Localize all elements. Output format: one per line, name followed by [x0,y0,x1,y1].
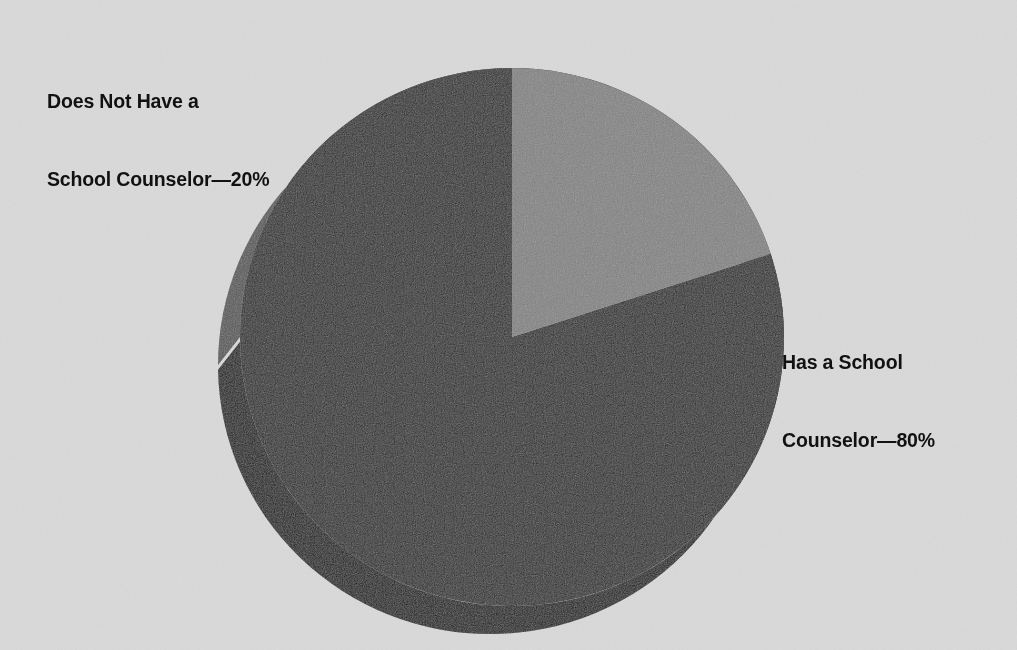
has-counselor-label-line2: Counselor—80% [782,427,935,453]
pie-chart-figure: Does Not Have a School Counselor—20% Has… [0,0,1017,650]
has-counselor-label: Has a School Counselor—80% [782,297,935,505]
does-not-have-counselor-label-line2: School Counselor—20% [47,166,269,192]
does-not-have-counselor-label: Does Not Have a School Counselor—20% [47,36,269,244]
does-not-have-counselor-label-line1: Does Not Have a [47,88,269,114]
has-counselor-label-line1: Has a School [782,349,935,375]
